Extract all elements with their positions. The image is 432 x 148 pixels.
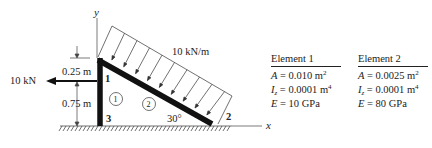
element-1-modulus: E = 10 GPa [271,97,341,111]
element-2-modulus: E = 80 GPa [358,97,428,111]
point-load-arrowhead [46,77,56,85]
dimension-lower: 0.75 m [62,98,91,109]
element-2-number: 2 [147,100,151,109]
element-1-inertia: Iz = 0.0001 m4 [271,83,341,97]
dimension-lines [70,46,90,126]
node-1-label: 1 [105,73,110,84]
element-2-area: A = 0.0025 m2 [358,69,428,83]
element-1-area: A = 0.010 m2 [271,69,341,83]
element-1-title: Element 1 [271,52,341,67]
node-3-label: 3 [106,113,111,124]
angle-label: 30° [167,113,182,124]
element-2-properties: Element 2 A = 0.0025 m2 Iz = 0.0001 m4 E… [358,52,428,111]
element-1-number: 1 [114,95,118,104]
element-2-beam [98,60,212,124]
element-1-properties: Element 1 A = 0.010 m2 Iz = 0.0001 m4 E … [271,52,341,111]
point-load-label: 10 kN [10,75,36,86]
ground-hatch [59,126,232,131]
distributed-load-label: 10 kN/m [172,46,209,57]
distributed-load [98,26,232,124]
y-axis-label: y [93,6,99,18]
dimension-upper: 0.25 m [62,66,91,77]
node-2-label: 2 [226,111,231,122]
element-2-title: Element 2 [358,52,428,67]
element-2-inertia: Iz = 0.0001 m4 [358,83,428,97]
x-axis-label: x [265,119,271,131]
